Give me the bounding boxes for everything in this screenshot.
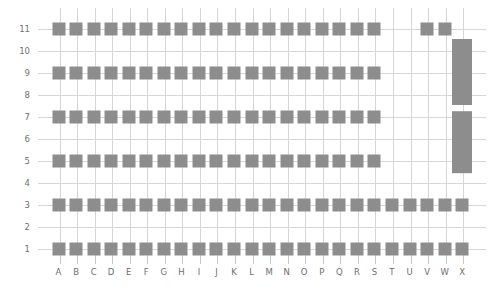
- data-point-marker: [403, 199, 416, 212]
- data-point-marker: [52, 199, 65, 212]
- data-point-marker: [140, 23, 153, 36]
- x-axis-tick: [270, 255, 271, 264]
- grid-line-vertical: [358, 8, 359, 255]
- data-point-marker: [122, 67, 135, 80]
- data-point-marker: [350, 243, 363, 256]
- x-axis-label-u: U: [406, 268, 412, 277]
- data-point-marker: [333, 23, 346, 36]
- x-axis-label-c: C: [91, 268, 97, 277]
- x-axis-tick: [253, 255, 254, 264]
- x-axis-tick: [375, 255, 376, 264]
- x-axis-tick: [340, 255, 341, 264]
- data-point-marker: [368, 111, 381, 124]
- data-point-marker: [70, 243, 83, 256]
- data-point-marker: [315, 243, 328, 256]
- data-point-marker: [315, 155, 328, 168]
- data-point-marker: [210, 243, 223, 256]
- grid-line-vertical: [112, 8, 113, 255]
- data-point-marker: [421, 243, 434, 256]
- grid-line-vertical: [200, 8, 201, 255]
- data-point-marker: [315, 67, 328, 80]
- data-point-marker: [280, 67, 293, 80]
- x-axis-label-p: P: [319, 268, 324, 277]
- data-point-marker: [280, 199, 293, 212]
- data-point-marker: [350, 155, 363, 168]
- data-point-marker: [122, 155, 135, 168]
- data-point-marker: [368, 23, 381, 36]
- data-point-marker: [403, 243, 416, 256]
- grid-line-vertical: [60, 8, 61, 255]
- data-point-marker: [192, 67, 205, 80]
- x-axis-label-f: F: [144, 268, 149, 277]
- data-point-marker: [263, 243, 276, 256]
- data-point-marker: [368, 199, 381, 212]
- x-axis-label-h: H: [178, 268, 184, 277]
- data-point-marker: [52, 111, 65, 124]
- data-point-marker: [175, 111, 188, 124]
- x-axis-label-d: D: [108, 268, 115, 277]
- grid-line-horizontal: [38, 139, 486, 140]
- data-point-marker: [333, 111, 346, 124]
- data-point-marker: [245, 199, 258, 212]
- data-point-marker: [175, 23, 188, 36]
- x-axis-tick: [428, 255, 429, 264]
- x-axis-label-a: A: [56, 268, 62, 277]
- data-point-marker: [333, 67, 346, 80]
- data-point-marker: [245, 155, 258, 168]
- data-point-marker: [210, 23, 223, 36]
- data-point-marker: [122, 111, 135, 124]
- y-axis-label-9: 9: [8, 69, 30, 78]
- x-axis-label-v: V: [424, 268, 430, 277]
- data-point-marker: [315, 23, 328, 36]
- data-point-marker: [157, 155, 170, 168]
- x-axis-label-b: B: [73, 268, 79, 277]
- data-bar-x: [452, 39, 472, 105]
- data-point-marker: [52, 67, 65, 80]
- x-axis-label-t: T: [389, 268, 394, 277]
- x-axis-tick: [235, 255, 236, 264]
- data-point-marker: [315, 111, 328, 124]
- x-axis-label-n: N: [283, 268, 289, 277]
- data-point-marker: [333, 155, 346, 168]
- grid-line-horizontal: [38, 51, 486, 52]
- data-point-marker: [140, 111, 153, 124]
- data-point-marker: [87, 111, 100, 124]
- data-point-marker: [157, 199, 170, 212]
- data-point-marker: [52, 155, 65, 168]
- data-point-marker: [298, 155, 311, 168]
- data-point-marker: [385, 199, 398, 212]
- x-axis-label-l: L: [249, 268, 254, 277]
- x-axis-tick: [463, 255, 464, 264]
- data-point-marker: [245, 67, 258, 80]
- grid-line-vertical: [393, 8, 394, 255]
- x-axis-tick: [305, 255, 306, 264]
- y-axis-label-2: 2: [8, 223, 30, 232]
- grid-line-vertical: [182, 8, 183, 255]
- data-point-marker: [70, 155, 83, 168]
- x-axis-tick: [411, 255, 412, 264]
- data-point-marker: [105, 243, 118, 256]
- data-point-marker: [245, 23, 258, 36]
- data-point-marker: [280, 243, 293, 256]
- scatter-grid-plot: ABCDEFGHIJKLMNOPQRSTUVWX 1234567891011: [0, 0, 498, 296]
- data-point-marker: [280, 155, 293, 168]
- data-point-marker: [70, 67, 83, 80]
- x-axis-label-w: W: [440, 268, 448, 277]
- data-point-marker: [175, 243, 188, 256]
- grid-line-vertical: [77, 8, 78, 255]
- y-axis-label-3: 3: [8, 201, 30, 210]
- data-point-marker: [87, 155, 100, 168]
- data-point-marker: [298, 111, 311, 124]
- grid-line-vertical: [130, 8, 131, 255]
- grid-line-vertical: [270, 8, 271, 255]
- grid-line-vertical: [340, 8, 341, 255]
- data-point-marker: [157, 111, 170, 124]
- data-point-marker: [105, 111, 118, 124]
- data-point-marker: [140, 67, 153, 80]
- y-axis-label-10: 10: [8, 47, 30, 56]
- data-point-marker: [87, 23, 100, 36]
- x-axis-tick: [393, 255, 394, 264]
- x-axis-label-i: I: [198, 268, 201, 277]
- y-axis-label-1: 1: [8, 245, 30, 254]
- data-point-marker: [175, 67, 188, 80]
